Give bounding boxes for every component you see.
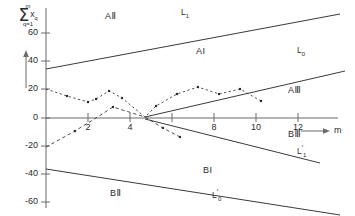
axes-group bbox=[46, 8, 338, 208]
plot-figure: m Σ xq q=1 60 40 20 0 -20 -40 -60 2 4 8 … bbox=[0, 0, 355, 216]
series-zigzag-upper bbox=[46, 86, 262, 117]
y-tick-label-60: 60 bbox=[10, 28, 38, 37]
region-label-B2: BⅡ bbox=[110, 189, 121, 198]
region-label-B1: BI bbox=[203, 166, 212, 175]
line-L0-prime bbox=[46, 169, 340, 215]
y-tick-label-neg60: -60 bbox=[6, 197, 38, 206]
y-tick-label-40: 40 bbox=[10, 56, 38, 65]
region-label-B3: BⅢ bbox=[288, 130, 301, 139]
y-tick-label-0: 0 bbox=[10, 113, 38, 122]
line-L1 bbox=[46, 14, 340, 69]
line-label-L0: L0 bbox=[297, 46, 305, 57]
x-tick-label-10: 10 bbox=[246, 123, 266, 132]
series-zigzag-lower bbox=[46, 106, 181, 147]
plot-canvas bbox=[0, 0, 355, 216]
summation-variable-subscript: q bbox=[34, 14, 37, 20]
x-tick-label-4: 4 bbox=[120, 123, 140, 132]
region-label-A2: AⅡ bbox=[105, 12, 116, 21]
line-label-L1: L1 bbox=[181, 8, 189, 19]
summation-variable: xq bbox=[30, 10, 37, 21]
x-tick-label-2: 2 bbox=[78, 123, 98, 132]
summation-sigma-icon: Σ bbox=[18, 8, 29, 22]
y-tick-label-neg20: -20 bbox=[6, 141, 38, 150]
line-label-L1-prime: L′1 bbox=[297, 144, 306, 158]
x-tick-label-8: 8 bbox=[204, 123, 224, 132]
region-label-A3: AⅢ bbox=[288, 86, 301, 95]
region-label-A1: AI bbox=[196, 47, 205, 56]
y-tick-label-20: 20 bbox=[10, 84, 38, 93]
x-axis-name: m bbox=[334, 126, 342, 135]
line-L0 bbox=[145, 71, 345, 117]
y-tick-label-neg40: -40 bbox=[6, 169, 38, 178]
arrow-group bbox=[23, 50, 330, 134]
line-label-L0-prime: L′0 bbox=[212, 188, 221, 202]
